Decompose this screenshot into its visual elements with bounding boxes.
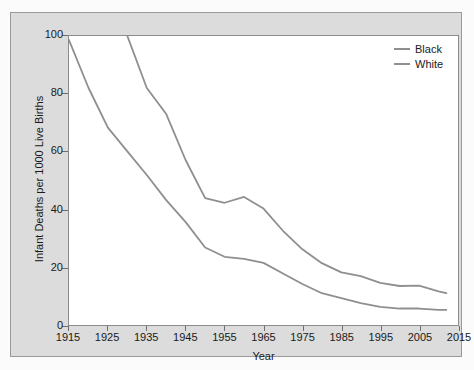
y-axis-title: Infant Deaths per 1000 Live Births (33, 79, 45, 279)
chart-figure: 020406080100 191519251935194519551965197… (0, 0, 474, 370)
x-tick-label: 1925 (95, 331, 119, 343)
legend-label-white: White (415, 58, 443, 70)
chart-legend: Black White (394, 41, 458, 71)
x-tick-label: 1995 (369, 331, 393, 343)
legend-item-white: White (394, 56, 458, 71)
legend-label-black: Black (415, 43, 442, 55)
series-line-white (69, 40, 446, 310)
y-tick-label: 80 (51, 87, 63, 98)
legend-swatch-white-icon (394, 63, 410, 65)
x-tick-label: 1975 (290, 331, 314, 343)
x-tick-label: 1915 (56, 331, 80, 343)
legend-item-black: Black (394, 41, 458, 56)
x-tick-label: 1945 (173, 331, 197, 343)
x-axis-title: Year (68, 350, 459, 362)
plot-area (68, 35, 459, 326)
legend-swatch-black-icon (394, 48, 410, 50)
y-tick-label: 20 (51, 262, 63, 273)
x-axis-tick-labels: 1915192519351945195519651975198519952005… (11, 331, 474, 347)
x-tick-label: 2015 (447, 331, 471, 343)
series-line-black (127, 36, 446, 293)
x-tick-label: 1935 (134, 331, 158, 343)
y-tick-label: 100 (45, 29, 63, 40)
series-layer (69, 36, 458, 325)
x-tick-label: 2005 (408, 331, 432, 343)
chart-panel: 020406080100 191519251935194519551965197… (10, 12, 462, 357)
x-tick-label: 1985 (329, 331, 353, 343)
y-tick-label: 0 (57, 320, 63, 331)
y-tick-label: 60 (51, 145, 63, 156)
x-tick-label: 1965 (251, 331, 275, 343)
x-tick-label: 1955 (212, 331, 236, 343)
y-tick-label: 40 (51, 204, 63, 215)
